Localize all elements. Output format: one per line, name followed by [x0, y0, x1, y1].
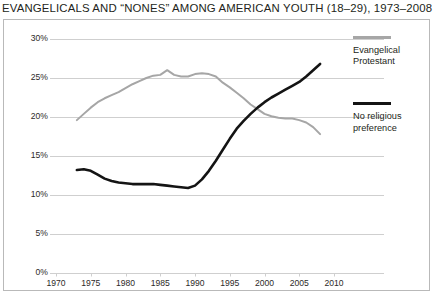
legend-swatch-no-religious-preference [353, 102, 391, 105]
series-lines [77, 64, 320, 188]
y-axis-label-0%: 0% [14, 267, 48, 278]
legend-label-evangelical-protestant-line2: Protestant [353, 56, 437, 68]
legend-label-evangelical-protestant-line1: Evangelical [353, 45, 437, 57]
legend-label-no-religious-preference-line2: preference [353, 123, 437, 135]
chart-figure: EVANGELICALS AND “NONES” AMONG AMERICAN … [0, 0, 437, 301]
y-axis-label-15%: 15% [14, 150, 48, 161]
x-axis-label-2010: 2010 [314, 278, 354, 289]
legend-label-no-religious-preference-line1: No religious [353, 111, 437, 123]
y-axis-label-5%: 5% [14, 228, 48, 239]
y-axis-label-10%: 10% [14, 189, 48, 200]
legend-swatch-evangelical-protestant [353, 36, 391, 39]
chart-title: EVANGELICALS AND “NONES” AMONG AMERICAN … [2, 0, 435, 17]
y-axis-label-25%: 25% [14, 72, 48, 83]
series-line-no-religious-preference [77, 64, 320, 188]
series-line-evangelical-protestant [77, 70, 320, 134]
y-axis-label-30%: 30% [14, 33, 48, 44]
legend-item-evangelical-protestant: Evangelical Protestant [353, 36, 437, 68]
plot-frame: 0%5%10%15%20%25%30% 19701975198019851990… [3, 19, 430, 291]
legend-item-no-religious-preference: No religious preference [353, 102, 437, 134]
y-axis-label-20%: 20% [14, 111, 48, 122]
